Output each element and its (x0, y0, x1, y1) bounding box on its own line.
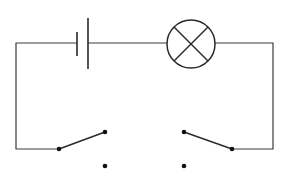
switch-right-lower-contact (182, 164, 187, 169)
wires (16, 43, 273, 149)
switch-right-icon (182, 130, 235, 169)
switch-left-lower-contact (103, 164, 108, 169)
switch-right-upper-contact (182, 130, 187, 135)
switch-left-pivot (57, 147, 62, 152)
switch-right-pivot (230, 147, 235, 152)
lamp-icon (167, 20, 215, 68)
switch-left-icon (57, 130, 108, 169)
switch-left-lever (59, 132, 105, 149)
wire-lamp-to-right (215, 43, 273, 149)
wire-left-to-battery (16, 43, 77, 149)
switch-right-lever (184, 132, 232, 149)
battery-icon (77, 18, 88, 69)
circuit-diagram (0, 0, 289, 178)
switch-left-upper-contact (103, 130, 108, 135)
